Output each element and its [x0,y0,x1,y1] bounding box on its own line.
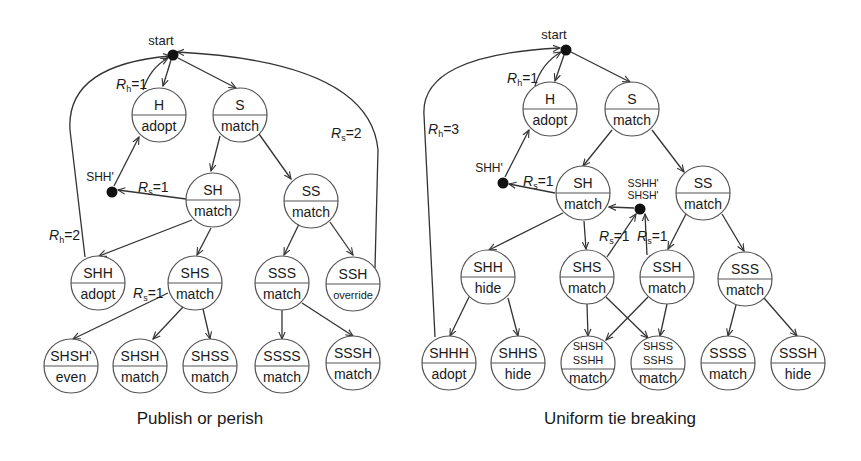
diagram-publish-or-perish: start SHH' H adopt S match SH match [44,33,380,428]
edge-start-to-h [163,60,171,86]
node-ssss-top: SSSS [263,348,300,364]
node-ssss-top: SSSS [709,345,746,361]
label-rs1-shs: Rs=1 [599,228,630,246]
edge-sh-to-shh [489,213,563,250]
node-shss: SHSS match [183,339,237,393]
node-shsh: SHSH match [113,339,167,393]
node-h-top: H [154,97,164,113]
node-shs-bottom: match [568,280,606,296]
node-shsh-sshh-top2: SSHH [573,354,604,366]
node-s-bottom: match [613,112,651,128]
shh-prime-label: SHH' [475,161,503,175]
edge-shh-to-shhs [508,298,518,336]
node-s-top: S [235,97,244,113]
edge-merge-dot-to-sh [609,207,634,208]
node-shss-sshs: SHSS SSHS match [631,336,685,390]
edge-shs-to-shsh-sshh [587,304,588,336]
node-shhh-bottom: adopt [431,366,466,382]
shh-prime-dot [498,178,509,189]
node-shhs: SHHS hide [491,336,545,390]
shh-prime-label: SHH' [86,170,114,184]
node-shss-bottom: match [191,369,229,385]
node-ss-bottom: match [684,196,722,212]
node-ssh: SSH match [640,250,694,304]
node-shss-top: SHSS [191,348,229,364]
state-diagram-canvas: start SHH' H adopt S match SH match [0,0,861,461]
node-sss: SSS match [255,256,309,310]
node-shhs-top: SHHS [499,345,538,361]
node-sh: SH match [556,166,610,220]
node-h-bottom: adopt [141,118,176,134]
edge-sh-to-shs [584,221,586,249]
label-rs2: Rs=2 [331,125,362,143]
node-shsh-sshh: SHSH SSHH match [561,336,615,390]
merge-dot-label-line2: SHSH' [627,189,658,201]
caption-publish-or-perish: Publish or perish [137,409,264,428]
label-rh1: Rh=1 [116,76,147,94]
node-shs: SHS match [560,250,614,304]
edge-ss-to-ssh [330,222,353,255]
node-shh: SHH hide [461,250,515,304]
node-sssh-bottom: match [334,366,372,382]
label-rs1-sh: Rs=1 [138,179,169,197]
edge-shh-to-shhh [450,297,469,336]
node-ss-top: SS [694,175,713,191]
edge-ss-to-sss [722,214,744,251]
node-shss-sshs-bottom: match [639,370,677,386]
edge-start-to-s [178,58,236,88]
edge-ss-to-ssh [668,214,686,249]
shh-prime-dot-node: SHH' [86,170,117,198]
node-shs-top: SHS [573,259,602,275]
edge-start-to-h [555,55,564,81]
start-label: start [148,33,174,48]
shh-prime-dot [107,187,118,198]
node-sssh-top: SSSH [779,345,817,361]
node-shsh-sshh-top1: SHSH [573,340,604,352]
label-rs1-shs: Rs=1 [133,285,164,303]
label-rh2: Rh=2 [49,227,80,245]
node-sssh: SSSH match [326,336,380,390]
edge-s-to-sh [583,130,612,166]
edge-ss-to-sss [284,222,300,255]
node-sh: SH match [186,173,240,227]
edge-shh-prime-to-h [114,137,139,186]
node-h: H adopt [132,88,186,142]
node-ssss-bottom: match [709,366,747,382]
node-ss-bottom: match [292,204,330,220]
node-ssh-top: SSH [339,266,368,282]
node-shh-bottom: hide [475,280,502,296]
node-shhh-top: SHHH [429,345,469,361]
node-ssh-top: SSH [653,259,682,275]
node-shh: SHH adopt [71,256,125,310]
node-sh-top: SH [203,182,222,198]
edge-sh-to-shs [197,228,211,255]
edge-sss-to-sssh [764,298,797,336]
start-dot [561,45,572,56]
node-ssh-bottom: match [648,280,686,296]
edge-s-to-ss [652,130,684,172]
edge-sh-to-shh [99,220,192,256]
node-h-bottom: adopt [532,112,567,128]
merge-dot-label-line1: SSHH' [627,177,658,189]
node-shhh: SHHH adopt [422,336,476,390]
label-rs1-ssh: Rs=1 [637,228,668,246]
caption-uniform-tie-breaking: Uniform tie breaking [544,409,696,428]
node-sssh: SSSH hide [771,336,825,390]
shh-prime-dot-node: SHH' [475,161,508,189]
edge-sss-to-ssss [728,305,736,336]
edge-h-to-start [535,52,561,86]
node-sssh-bottom: hide [785,366,812,382]
node-shsh-sshh-bottom: match [569,370,607,386]
merge-dot-node: SSHH' SHSH' [627,177,658,215]
node-shs-bottom: match [176,286,214,302]
node-sss-top: SSS [268,265,296,281]
node-sh-top: SH [573,175,592,191]
node-shss-sshs-top1: SHSS [643,340,673,352]
node-s-top: S [627,91,636,107]
node-sss-top: SSS [731,261,759,277]
node-ssss-bottom: match [263,369,301,385]
node-ss: SS match [284,174,338,228]
node-sss-bottom: match [726,282,764,298]
node-shsh-prime-bottom: even [56,369,86,385]
node-shsh-top: SHSH [121,348,160,364]
